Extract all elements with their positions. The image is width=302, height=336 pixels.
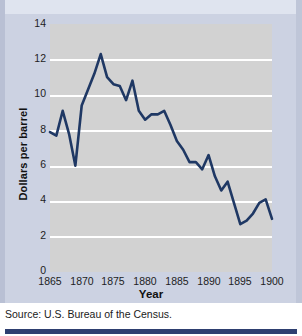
y-tick-4: 4 [24, 194, 46, 204]
x-tick-1880: 1880 [128, 275, 162, 287]
y-axis-tick-labels: 14 12 10 8 6 4 2 0 [22, 0, 46, 303]
y-tick-8: 8 [24, 124, 46, 134]
x-tick-1900: 1900 [255, 275, 289, 287]
panel-left-edge [0, 0, 5, 303]
x-tick-1865: 1865 [33, 275, 67, 287]
y-tick-12: 12 [24, 53, 46, 63]
source-note: Source: U.S. Bureau of the Census. [5, 308, 172, 320]
y-tick-14: 14 [24, 18, 46, 28]
caption-strip: Source: U.S. Bureau of the Census. [0, 303, 302, 328]
plot-area [50, 24, 272, 272]
x-tick-1885: 1885 [160, 275, 194, 287]
y-tick-0: 0 [24, 265, 46, 275]
x-tick-1895: 1895 [223, 275, 257, 287]
panel-right-edge [296, 0, 302, 303]
x-tick-1875: 1875 [96, 275, 130, 287]
y-tick-10: 10 [24, 88, 46, 98]
figure-panel: Dollars per barrel 14 12 10 8 6 4 2 0 18… [0, 0, 302, 303]
y-tick-6: 6 [24, 159, 46, 169]
series-line-dollars-per-barrel [50, 24, 272, 272]
x-axis-label: Year [0, 288, 302, 300]
x-tick-1890: 1890 [192, 275, 226, 287]
x-axis-tick-labels: 1865 1870 1875 1880 1885 1890 1895 1900 [50, 275, 272, 289]
y-tick-2: 2 [24, 230, 46, 240]
bottom-rule [5, 329, 297, 334]
x-tick-1870: 1870 [65, 275, 99, 287]
